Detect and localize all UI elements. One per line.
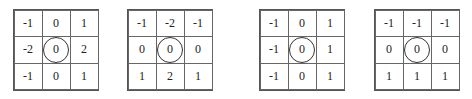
kernel-value: 0: [195, 42, 201, 57]
kernel-cell: -2: [156, 10, 185, 38]
kernel-value: 1: [442, 69, 448, 84]
kernel-value: 0: [386, 42, 392, 57]
kernel-value: 0: [53, 16, 59, 31]
kernel-grid-prewitt-y: -1-1-1000111: [374, 9, 460, 91]
kernel-cell: -1: [260, 36, 289, 64]
kernel-cell: -1: [184, 10, 213, 38]
kernel-value: -2: [23, 42, 33, 57]
kernel-value: 0: [139, 42, 145, 57]
kernel-value: 0: [299, 16, 305, 31]
kernel-value: 0: [299, 69, 305, 84]
kernel-cell: -1: [375, 10, 404, 38]
kernel-center-cell: 0: [42, 36, 71, 64]
kernel-cell: -1: [431, 10, 460, 38]
kernel-value: -1: [440, 16, 450, 31]
kernel-value: 2: [81, 42, 87, 57]
kernel-grid-sobel-y: -1-2-1000121: [127, 9, 213, 91]
kernel-cell: 1: [375, 63, 404, 91]
kernel-cell: -1: [260, 63, 289, 91]
kernel-value: -1: [384, 16, 394, 31]
kernel-cell: 1: [316, 63, 345, 91]
kernel-value: 0: [53, 42, 59, 57]
kernel-value: 0: [167, 42, 173, 57]
kernel-value: 1: [81, 16, 87, 31]
kernel-value: -2: [165, 16, 175, 31]
kernel-value: -1: [269, 42, 279, 57]
kernel-value: -1: [269, 16, 279, 31]
kernel-cell: -1: [128, 10, 157, 38]
kernel-cell: 1: [316, 10, 345, 38]
kernel-cell: 1: [128, 63, 157, 91]
kernel-cell: 0: [42, 10, 71, 38]
kernel-value: -1: [269, 69, 279, 84]
kernel-value: 0: [53, 69, 59, 84]
kernel-cell: 2: [156, 63, 185, 91]
kernel-grid-sobel-x: -101-202-101: [13, 9, 99, 91]
kernel-cell: 1: [70, 63, 99, 91]
kernel-center-cell: 0: [288, 36, 317, 64]
kernel-cell: 1: [403, 63, 432, 91]
kernel-value: 1: [327, 16, 333, 31]
kernel-cell: -2: [14, 36, 43, 64]
kernel-value: -1: [23, 16, 33, 31]
kernel-cell: -1: [14, 63, 43, 91]
kernel-value: 1: [81, 69, 87, 84]
kernel-value: 0: [414, 42, 420, 57]
kernel-center-cell: 0: [156, 36, 185, 64]
kernel-value: 1: [414, 69, 420, 84]
kernel-value: -1: [412, 16, 422, 31]
kernel-cell: 0: [288, 10, 317, 38]
kernel-cell: 0: [128, 36, 157, 64]
kernel-cell: 0: [184, 36, 213, 64]
kernel-value: 1: [386, 69, 392, 84]
kernel-grid-prewitt-x: -101-101-101: [259, 9, 345, 91]
kernel-cell: 0: [42, 63, 71, 91]
kernel-value: 2: [167, 69, 173, 84]
kernel-value: 1: [139, 69, 145, 84]
kernel-cell: 2: [70, 36, 99, 64]
kernel-cell: -1: [260, 10, 289, 38]
kernel-value: 0: [299, 42, 305, 57]
kernel-cell: 1: [431, 63, 460, 91]
kernel-value: -1: [23, 69, 33, 84]
kernel-value: -1: [193, 16, 203, 31]
kernel-cell: 1: [184, 63, 213, 91]
kernel-cell: 0: [431, 36, 460, 64]
kernel-cell: -1: [403, 10, 432, 38]
kernel-cell: 0: [375, 36, 404, 64]
kernel-cell: -1: [14, 10, 43, 38]
kernel-value: 1: [327, 69, 333, 84]
kernel-cell: 1: [316, 36, 345, 64]
kernel-value: 1: [327, 42, 333, 57]
kernel-cell: 0: [288, 63, 317, 91]
kernel-cell: 1: [70, 10, 99, 38]
kernel-value: 1: [195, 69, 201, 84]
kernel-value: 0: [442, 42, 448, 57]
kernel-value: -1: [137, 16, 147, 31]
kernel-center-cell: 0: [403, 36, 432, 64]
